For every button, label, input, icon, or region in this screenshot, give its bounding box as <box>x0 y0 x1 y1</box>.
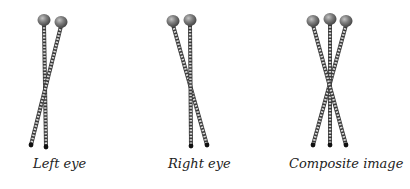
pin-tip <box>328 143 333 148</box>
pin <box>184 14 197 148</box>
pin-tip <box>205 143 210 148</box>
composite-image-label: Composite image <box>289 156 403 171</box>
right-eye-label: Right eye <box>168 156 231 171</box>
pin-head <box>307 15 320 27</box>
pin-tip <box>311 143 316 148</box>
composite-image-panel <box>307 13 353 147</box>
pin-tip <box>44 145 49 150</box>
left-eye-label: Left eye <box>33 156 86 171</box>
pin-head <box>324 13 337 25</box>
left-eye-panel <box>29 14 68 149</box>
right-eye-panel <box>167 14 210 148</box>
pin-head <box>184 14 197 26</box>
pin-head <box>38 14 51 26</box>
pin-tip <box>29 143 34 148</box>
pin-tip <box>189 144 194 149</box>
pin <box>167 15 210 147</box>
pins-layer <box>29 13 353 149</box>
pin-head <box>340 15 353 27</box>
pin-head <box>55 16 68 28</box>
pin <box>29 16 68 147</box>
pin-head <box>167 15 180 27</box>
pin-tip <box>344 143 349 148</box>
